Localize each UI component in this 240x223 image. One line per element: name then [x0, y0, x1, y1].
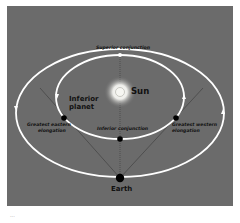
greatest-eastern-elongation-point	[61, 115, 67, 121]
inferior-conjunction-label: Inferior conjunction	[97, 127, 148, 132]
arrow-up-icon	[182, 94, 186, 99]
greatest-eastern-elongation-label-2: elongation	[38, 129, 66, 134]
sun-icon	[116, 88, 125, 97]
earth-label: Earth	[111, 186, 132, 193]
inferior-conjunction-point	[117, 136, 123, 142]
superior-conjunction-label: Superior conjunction	[96, 46, 150, 51]
greatest-western-elongation-label-2: elongation	[172, 129, 200, 134]
superior-conjunction-point	[118, 53, 122, 57]
sun-label: Sun	[131, 87, 149, 96]
inferior-planet-label-1: Inferior	[69, 96, 99, 103]
inferior-planet-label-2: planet	[69, 104, 94, 111]
arrow-down-icon	[14, 106, 18, 111]
earth-icon	[116, 174, 124, 182]
greatest-western-elongation-point	[173, 115, 179, 121]
figure-caption: ...	[10, 212, 15, 218]
greatest-western-elongation-label-1: Greatest western	[172, 123, 217, 128]
greatest-eastern-elongation-label-1: Greatest eastern	[27, 123, 71, 128]
